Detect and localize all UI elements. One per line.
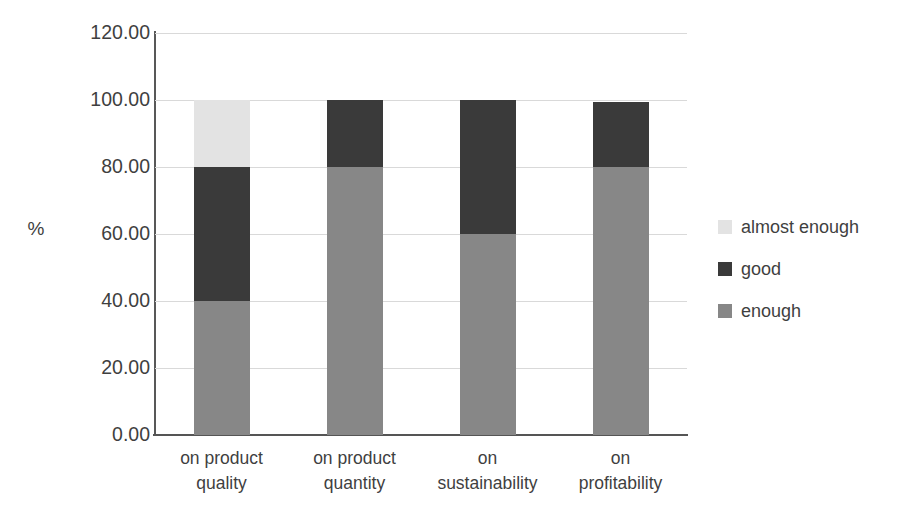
category-label-line: sustainability: [421, 471, 554, 496]
bar-segment-good[interactable]: [327, 100, 383, 167]
bar-segment-good[interactable]: [460, 100, 516, 234]
y-axis-tick-label: 40.00: [54, 291, 150, 311]
chart-legend: almost enoughgoodenough: [718, 206, 908, 332]
y-axis-tick-label: 120.00: [54, 23, 150, 43]
bar-group[interactable]: [554, 33, 687, 435]
category-label-line: on product: [155, 446, 288, 471]
bar-group[interactable]: [421, 33, 554, 435]
stacked-bar-chart: % 0.0020.0040.0060.0080.00100.00120.00 o…: [0, 0, 917, 529]
bar-segment-enough[interactable]: [593, 167, 649, 435]
bar-group[interactable]: [288, 33, 421, 435]
legend-swatch-icon: [718, 304, 732, 318]
legend-label: good: [741, 259, 781, 280]
x-axis-category-label: on productquantity: [288, 446, 421, 496]
legend-swatch-icon: [718, 262, 732, 276]
bar-group[interactable]: [155, 33, 288, 435]
y-axis-tick-labels: 0.0020.0040.0060.0080.00100.00120.00: [46, 0, 150, 529]
category-label-line: on: [421, 446, 554, 471]
legend-swatch-icon: [718, 220, 732, 234]
bar-segment-good[interactable]: [194, 167, 250, 301]
legend-label: almost enough: [741, 217, 859, 238]
category-label-line: quantity: [288, 471, 421, 496]
legend-item[interactable]: almost enough: [718, 206, 908, 248]
y-axis-tick-label: 100.00: [54, 90, 150, 110]
y-axis-tick-label: 80.00: [54, 157, 150, 177]
category-label-line: quality: [155, 471, 288, 496]
bar-segment-almost-enough[interactable]: [194, 100, 250, 167]
y-axis-tick-label: 0.00: [54, 425, 150, 445]
stacked-bar[interactable]: [194, 33, 250, 435]
x-axis-category-labels: on productqualityon productquantityonsus…: [155, 446, 687, 516]
category-label-line: on product: [288, 446, 421, 471]
legend-label: enough: [741, 301, 801, 322]
legend-item[interactable]: good: [718, 248, 908, 290]
y-axis-tick-label: 60.00: [54, 224, 150, 244]
bar-segment-enough[interactable]: [327, 167, 383, 435]
bar-segment-good[interactable]: [593, 102, 649, 167]
plot-area: [155, 33, 687, 435]
stacked-bar[interactable]: [593, 33, 649, 435]
x-axis-category-label: on productquality: [155, 446, 288, 496]
x-axis-category-label: onsustainability: [421, 446, 554, 496]
x-axis-category-label: onprofitability: [554, 446, 687, 496]
category-label-line: profitability: [554, 471, 687, 496]
category-label-line: on: [554, 446, 687, 471]
stacked-bar[interactable]: [327, 33, 383, 435]
legend-item[interactable]: enough: [718, 290, 908, 332]
y-axis-tick-label: 20.00: [54, 358, 150, 378]
bar-segment-enough[interactable]: [460, 234, 516, 435]
bar-segment-enough[interactable]: [194, 301, 250, 435]
stacked-bar[interactable]: [460, 33, 516, 435]
